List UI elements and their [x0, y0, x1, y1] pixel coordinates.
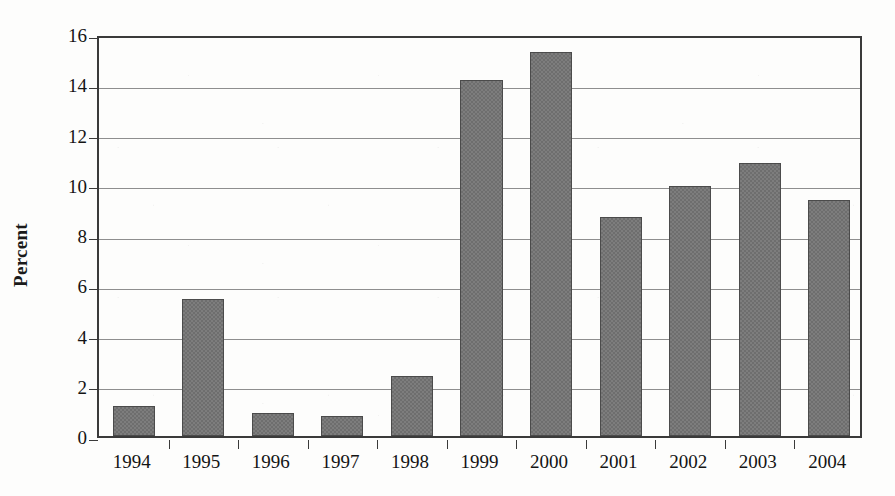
y-axis-tick-label: 14 [41, 76, 87, 95]
y-axis-tick [89, 88, 98, 89]
bar [600, 217, 642, 436]
bar [808, 200, 850, 436]
x-axis-tick [655, 440, 656, 449]
y-axis-tick [89, 239, 98, 240]
x-axis-tick-labels: 1994199519961997199819992000200120022003… [97, 452, 862, 482]
x-axis-tick [238, 440, 239, 449]
y-axis-tick [89, 389, 98, 390]
y-axis-tick-label: 6 [41, 277, 87, 296]
y-axis-tick-label: 4 [41, 328, 87, 347]
bar [321, 416, 363, 436]
y-axis-tick-label: 16 [41, 26, 87, 45]
y-axis-tick [89, 440, 98, 441]
x-axis-tick-label: 2002 [653, 452, 723, 471]
bar [739, 163, 781, 436]
x-axis-tick-label: 1996 [236, 452, 306, 471]
y-axis-tick-label: 12 [41, 127, 87, 146]
x-axis-tick-label: 2004 [792, 452, 862, 471]
x-axis-tick-label: 1998 [375, 452, 445, 471]
plot-area [97, 36, 862, 438]
bar [460, 80, 502, 436]
x-axis-tick [516, 440, 517, 449]
x-axis-tick [586, 440, 587, 449]
x-axis-tick [447, 440, 448, 449]
y-axis-tick [89, 138, 98, 139]
bar [669, 186, 711, 436]
y-axis-tick-label: 0 [41, 428, 87, 447]
x-axis-tick-label: 1994 [97, 452, 167, 471]
y-axis-tick [89, 289, 98, 290]
y-axis-tick-labels: 0246810121416 [27, 36, 87, 438]
y-axis-tick [89, 188, 98, 189]
bar [391, 376, 433, 436]
bar [182, 299, 224, 436]
x-axis-tick-label: 2001 [584, 452, 654, 471]
x-axis-tick [377, 440, 378, 449]
y-axis-tick-label: 8 [41, 227, 87, 246]
x-axis-tick [725, 440, 726, 449]
x-axis-tick-label: 1999 [445, 452, 515, 471]
bar [252, 413, 294, 436]
x-axis-tick [308, 440, 309, 449]
y-axis-tick [89, 38, 98, 39]
x-axis-tick-label: 2003 [723, 452, 793, 471]
y-axis-tick [89, 339, 98, 340]
plot-inner [99, 38, 860, 436]
x-axis-tick-label: 1995 [167, 452, 237, 471]
bar-chart-figure: Percent 0246810121416 199419951996199719… [0, 0, 895, 496]
y-axis-tick-label: 10 [41, 177, 87, 196]
x-axis-tick [169, 440, 170, 449]
x-axis-tick-label: 1997 [306, 452, 376, 471]
x-axis-tick [794, 440, 795, 449]
bar [530, 52, 572, 436]
y-axis-tick-label: 2 [41, 378, 87, 397]
bar [113, 406, 155, 436]
x-axis-tick-label: 2000 [514, 452, 584, 471]
